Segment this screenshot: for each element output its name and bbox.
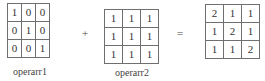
matrix-cell: 1 [105,28,123,46]
matrix-cell: 0 [22,40,36,58]
matrix-cell: 1 [206,23,224,41]
matrix-cell: 2 [242,41,260,59]
matrix-row: 2 1 1 [206,5,260,23]
matrix-cell: 0 [36,4,50,22]
matrix-cell: 1 [242,5,260,23]
operarr2-label: operarr2 [106,67,158,78]
matrix-row: 1 1 1 [105,10,159,28]
matrix-cell: 2 [206,5,224,23]
matrix-cell: 1 [224,5,242,23]
matrix-row: 1 2 1 [206,23,260,41]
matrix-cell: 0 [22,4,36,22]
matrix-cell: 0 [8,40,22,58]
matrix-cell: 1 [8,4,22,22]
matrix-cell: 1 [22,22,36,40]
matrix-row: 0 1 0 [8,22,50,40]
matrix-operarr2: 1 1 1 1 1 1 1 1 1 [104,9,159,64]
matrix-cell: 2 [224,23,242,41]
matrix-cell: 1 [123,10,141,28]
equals-operator: = [177,28,183,39]
matrix-row: 1 1 2 [206,41,260,59]
matrix-result: 2 1 1 1 2 1 1 1 2 [205,4,260,59]
matrix-row: 1 1 1 [105,46,159,64]
matrix-row: 1 1 1 [105,28,159,46]
matrix-cell: 1 [123,28,141,46]
matrix-cell: 1 [123,46,141,64]
matrix-cell: 1 [105,10,123,28]
operarr1-label: operarr1 [8,66,52,77]
matrix-cell: 1 [141,10,159,28]
matrix-cell: 1 [141,28,159,46]
matrix-cell: 1 [36,40,50,58]
matrix-operarr1: 1 0 0 0 1 0 0 0 1 [7,3,50,58]
plus-operator: + [82,28,88,39]
matrix-row: 1 0 0 [8,4,50,22]
matrix-cell: 1 [105,46,123,64]
matrix-cell: 1 [206,41,224,59]
matrix-row: 0 0 1 [8,40,50,58]
matrix-cell: 0 [8,22,22,40]
matrix-cell: 1 [242,23,260,41]
matrix-cell: 0 [36,22,50,40]
matrix-cell: 1 [141,46,159,64]
matrix-cell: 1 [224,41,242,59]
